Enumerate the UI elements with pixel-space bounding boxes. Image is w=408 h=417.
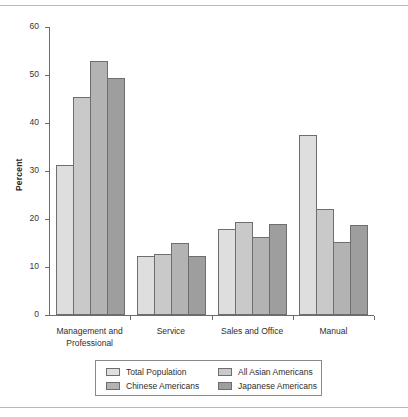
legend-item: Japanese Americans [218, 381, 317, 391]
legend-item: All Asian Americans [218, 367, 313, 377]
y-axis-tick: 10 [45, 267, 49, 268]
legend-label: Total Population [126, 367, 187, 377]
plot-area: 6050403020100 Management and Professiona… [49, 27, 374, 316]
bar [316, 209, 334, 315]
y-axis-tick-label: 40 [30, 117, 39, 128]
y-axis-tick-label: 10 [30, 261, 39, 272]
bar [218, 229, 236, 315]
bar [154, 254, 172, 315]
bar [252, 237, 270, 315]
y-axis-tick: 0 [45, 315, 49, 316]
legend-item: Total Population [106, 367, 187, 377]
bar [350, 225, 368, 315]
y-axis-tick-label: 20 [30, 213, 39, 224]
bar [299, 135, 317, 315]
legend-item: Chinese Americans [106, 381, 199, 391]
y-axis-line [49, 27, 50, 316]
y-axis-tick: 60 [45, 27, 49, 28]
bar [137, 256, 155, 315]
y-axis-tick-label: 60 [30, 21, 39, 32]
legend-label: Japanese Americans [238, 381, 317, 391]
top-divider [0, 5, 408, 6]
x-axis-category-label: Management and Professional [49, 325, 130, 349]
legend-swatch [106, 382, 120, 390]
x-axis-category-label: Manual [293, 325, 374, 337]
y-axis-tick-label: 30 [30, 165, 39, 176]
bar [73, 97, 91, 315]
legend-swatch [106, 368, 120, 376]
legend-label: All Asian Americans [238, 367, 313, 377]
y-axis-tick: 50 [45, 75, 49, 76]
y-axis-tick: 30 [45, 171, 49, 172]
y-axis-tick-label: 50 [30, 69, 39, 80]
legend-swatch [218, 368, 232, 376]
x-axis-category-label: Service [130, 325, 211, 337]
chart-legend: Total PopulationAll Asian AmericansChine… [95, 360, 322, 396]
bottom-divider [0, 407, 408, 408]
bar [333, 242, 351, 315]
y-axis-tick: 20 [45, 219, 49, 220]
chart-page: Percent 6050403020100 Management and Pro… [0, 0, 408, 417]
bar [171, 243, 189, 315]
bar [188, 256, 206, 315]
x-axis-tick [212, 316, 213, 320]
bar [269, 224, 287, 315]
bar [107, 78, 125, 315]
x-axis-tick [293, 316, 294, 320]
legend-label: Chinese Americans [126, 381, 199, 391]
y-axis-title: Percent [14, 140, 28, 210]
legend-swatch [218, 382, 232, 390]
x-axis-category-label: Sales and Office [212, 325, 293, 337]
bar [90, 61, 108, 315]
bar [56, 165, 74, 315]
y-axis-tick: 40 [45, 123, 49, 124]
x-axis-tick [374, 316, 375, 320]
bar [235, 222, 253, 315]
x-axis-tick [130, 316, 131, 320]
y-axis-tick-label: 0 [34, 309, 39, 320]
